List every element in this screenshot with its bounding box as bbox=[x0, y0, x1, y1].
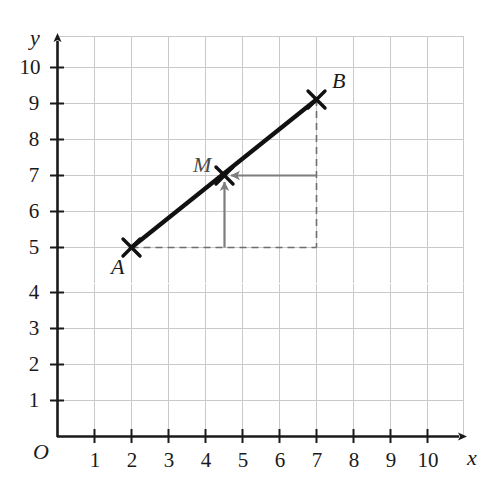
y-tick-1: 1 bbox=[18, 390, 50, 411]
x-tick-4: 4 bbox=[190, 450, 222, 471]
x-tick-2: 2 bbox=[116, 450, 148, 471]
point-label-a: A bbox=[111, 256, 124, 278]
coordinate-diagram: y x O A B M 1 2 3 4 5 6 7 8 9 10 1 2 3 4… bbox=[0, 0, 493, 485]
x-axis-label: x bbox=[467, 447, 477, 469]
x-tick-7: 7 bbox=[301, 450, 333, 471]
plot-canvas bbox=[0, 0, 493, 485]
y-tick-6: 6 bbox=[18, 201, 50, 222]
x-tick-9: 9 bbox=[375, 450, 407, 471]
origin-label: O bbox=[33, 441, 49, 463]
y-tick-2: 2 bbox=[18, 354, 50, 375]
x-tick-10: 10 bbox=[408, 450, 448, 471]
y-tick-4: 4 bbox=[18, 282, 50, 303]
y-tick-5: 5 bbox=[18, 237, 50, 258]
y-tick-8: 8 bbox=[18, 129, 50, 150]
x-tick-8: 8 bbox=[338, 450, 370, 471]
y-tick-3: 3 bbox=[18, 318, 50, 339]
x-tick-1: 1 bbox=[79, 450, 111, 471]
y-tick-7: 7 bbox=[18, 165, 50, 186]
y-axis-label: y bbox=[30, 27, 40, 49]
x-tick-6: 6 bbox=[264, 450, 296, 471]
point-label-m: M bbox=[193, 154, 211, 176]
grid-lines bbox=[57, 36, 464, 437]
x-tick-3: 3 bbox=[153, 450, 185, 471]
y-tick-9: 9 bbox=[18, 93, 50, 114]
x-tick-5: 5 bbox=[227, 450, 259, 471]
axes bbox=[57, 41, 459, 437]
y-tick-10: 10 bbox=[10, 57, 50, 78]
point-label-b: B bbox=[332, 70, 345, 92]
